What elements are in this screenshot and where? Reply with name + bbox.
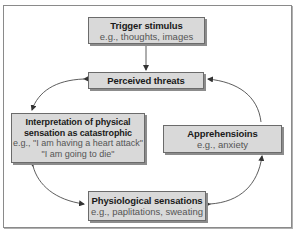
node-interpretation: Interpretation of physical sensation as … [11, 113, 145, 163]
node-example: e.g., thoughts, images [89, 31, 204, 42]
edge-physiological-apprehensions [210, 156, 262, 204]
node-example-line-1: e.g., "I am having a heart attack" [12, 138, 144, 149]
node-title-line-2: sensation as catastrophic [12, 128, 144, 139]
node-trigger-stimulus: Trigger stimulus e.g., thoughts, images [88, 17, 205, 44]
node-apprehensions: Apprehensioins e.g., anxiety [163, 125, 282, 153]
node-title: Perceived threats [89, 75, 203, 86]
edge-interpretation-physiological [33, 166, 84, 204]
node-title: Trigger stimulus [89, 20, 204, 31]
edge-perceived-interpretation [32, 79, 84, 110]
node-physiological-sensations: Physiological sensations e.g., paplitati… [88, 191, 206, 221]
node-example: e.g., paplitations, sweating [89, 206, 205, 217]
edge-apprehensions-to-perceived [208, 79, 261, 122]
node-perceived-threats: Perceived threats [88, 72, 204, 89]
node-example: e.g., anxiety [164, 139, 281, 150]
node-example-line-2: "I am going to die" [12, 149, 144, 160]
node-title: Physiological sensations [89, 195, 205, 206]
node-title: Apprehensioins [164, 128, 281, 139]
node-title-line-1: Interpretation of physical [12, 117, 144, 128]
